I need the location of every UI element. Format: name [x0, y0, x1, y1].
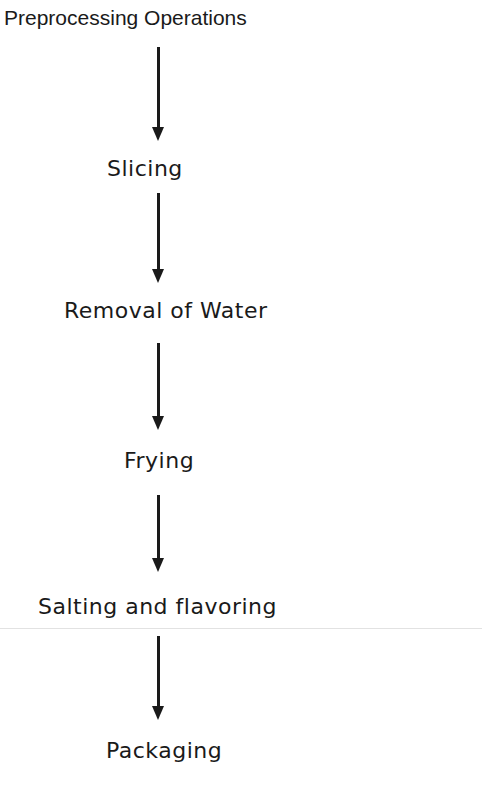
step-preprocessing: Preprocessing Operations	[4, 6, 247, 30]
page-divider	[0, 628, 482, 629]
down-arrow-icon	[155, 636, 161, 722]
step-slicing: Slicing	[107, 156, 183, 181]
step-removal-of-water: Removal of Water	[64, 298, 268, 323]
step-packaging: Packaging	[106, 738, 222, 763]
down-arrow-icon	[155, 495, 161, 575]
step-frying: Frying	[124, 448, 194, 473]
down-arrow-icon	[155, 343, 161, 433]
step-salting-and-flavoring: Salting and flavoring	[38, 594, 277, 619]
down-arrow-icon	[155, 193, 161, 285]
down-arrow-icon	[155, 47, 161, 142]
